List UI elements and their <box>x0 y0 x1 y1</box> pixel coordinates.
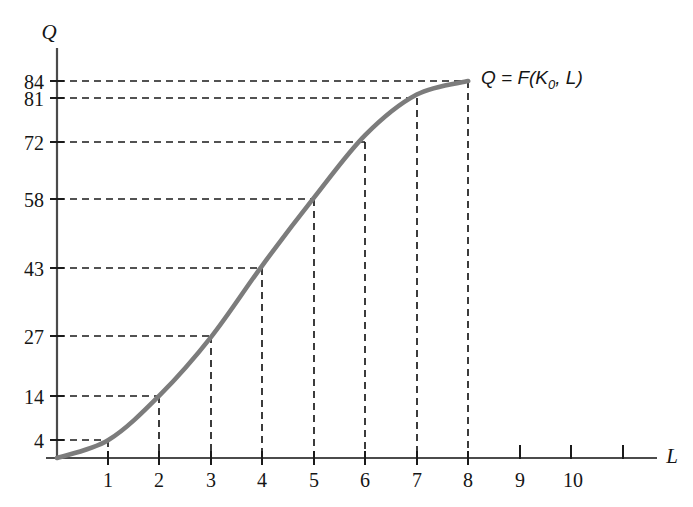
x-tick-label-7: 7 <box>412 469 422 491</box>
x-tick-labels: 1 2 3 4 5 6 7 8 9 10 <box>103 469 583 491</box>
y-tick-label-27: 27 <box>24 326 44 348</box>
x-tick-label-8: 8 <box>463 469 473 491</box>
x-tick-label-6: 6 <box>360 469 370 491</box>
vertical-guide-lines <box>108 81 468 457</box>
axes-group <box>46 48 657 459</box>
chart-canvas: 84 81 72 58 43 27 14 4 1 2 3 4 5 6 7 8 9… <box>0 0 693 507</box>
curve-label-tail: , L) <box>555 67 582 88</box>
x-tick-label-3: 3 <box>206 469 216 491</box>
production-function-chart: 84 81 72 58 43 27 14 4 1 2 3 4 5 6 7 8 9… <box>0 0 693 507</box>
x-tick-label-1: 1 <box>103 469 113 491</box>
horizontal-guide-lines <box>58 81 468 440</box>
x-tick-label-4: 4 <box>257 469 267 491</box>
x-tick-label-5: 5 <box>309 469 319 491</box>
curve-label-q: Q <box>481 67 496 88</box>
y-tick-label-81: 81 <box>24 88 44 110</box>
y-axis-title: Q <box>41 20 56 44</box>
x-tick-label-2: 2 <box>154 469 164 491</box>
y-tick-label-72: 72 <box>24 132 44 154</box>
y-tick-label-43: 43 <box>24 258 44 280</box>
y-tick-label-58: 58 <box>24 189 44 211</box>
y-tick-label-14: 14 <box>24 386 44 408</box>
y-tick-labels: 84 81 72 58 43 27 14 4 <box>24 71 44 452</box>
x-tick-label-9: 9 <box>515 469 525 491</box>
curve-equation-label: Q = F(K0, L) <box>481 67 583 92</box>
y-tick-label-4: 4 <box>34 430 44 452</box>
x-axis-title: L <box>665 444 678 468</box>
x-tick-label-10: 10 <box>563 469 583 491</box>
curve-label-eq: = F(K <box>496 67 550 88</box>
